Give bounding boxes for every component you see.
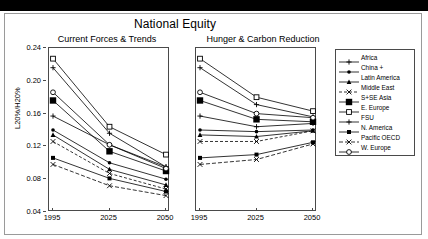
series-marker <box>108 161 112 165</box>
x-axis-tick <box>199 208 200 211</box>
series-marker <box>164 152 169 157</box>
series-line <box>200 68 313 117</box>
legend-symbol-cross-icon <box>338 133 360 143</box>
legend-item[interactable]: Middle East <box>338 83 412 93</box>
series-marker <box>107 167 112 172</box>
legend-label: FSU <box>360 113 374 123</box>
y-axis-tick <box>43 80 46 81</box>
legend-symbol-triangle-icon <box>338 73 360 83</box>
legend-item[interactable]: Africa <box>338 53 412 63</box>
y-axis: 0.040.080.120.160.200.24 <box>20 47 46 211</box>
series-marker <box>50 113 55 118</box>
y-axis-tick-label: 0.24 <box>17 43 41 52</box>
legend-item[interactable]: S+SE Asia <box>338 93 412 103</box>
top-black-band <box>0 0 428 11</box>
series-line <box>53 130 166 179</box>
legend-label: Middle East <box>360 83 394 93</box>
x-axis-tick-label: 2050 <box>148 213 182 222</box>
series-marker <box>106 148 112 154</box>
series-marker <box>254 102 259 107</box>
subplot-title-left: Current Forces & Trends <box>27 34 187 44</box>
plot-area-right <box>196 48 317 212</box>
legend-symbol-square-icon <box>338 123 360 133</box>
series-marker <box>197 113 202 118</box>
legend-label: N. America <box>360 123 392 133</box>
series-marker <box>51 56 56 61</box>
y-axis-tick-label: 0.20 <box>17 75 41 84</box>
series-marker <box>51 139 56 144</box>
series-marker <box>107 142 112 147</box>
legend-symbol-cross-icon <box>338 83 360 93</box>
y-axis-tick-label: 0.08 <box>17 174 41 183</box>
y-axis-tick-label: 0.12 <box>17 141 41 150</box>
x-axis-tick <box>256 208 257 211</box>
subplot-title-right: Hunger & Carbon Reduction <box>183 34 343 44</box>
y-axis-tick <box>43 113 46 114</box>
legend-item[interactable]: FSU <box>338 113 412 123</box>
series-marker <box>198 156 202 160</box>
legend-label: Africa <box>360 53 377 63</box>
x-axis-tick-label: 1995 <box>35 213 69 222</box>
subplot-left <box>48 47 169 211</box>
series-marker <box>51 162 56 167</box>
series-marker <box>51 156 55 160</box>
legend-item[interactable]: N. America <box>338 123 412 133</box>
series-marker <box>254 139 259 144</box>
x-axis-tick-label: 2050 <box>295 213 329 222</box>
y-axis-title: L20%/H20% <box>13 87 22 129</box>
series-marker <box>51 128 55 132</box>
legend-symbol-dot-icon <box>338 63 360 73</box>
series-marker <box>255 153 259 157</box>
y-axis-tick <box>43 178 46 179</box>
series-marker <box>50 97 56 103</box>
chart-main-title: National Equity <box>5 17 345 31</box>
series-marker <box>108 176 112 180</box>
legend-item[interactable]: Latin America <box>338 73 412 83</box>
legend-symbol-bigsquare-icon <box>338 93 360 103</box>
y-axis-tick <box>43 211 46 212</box>
x-axis-tick <box>165 208 166 211</box>
legend-symbol-opensquare-icon <box>338 103 360 113</box>
series-marker <box>107 171 112 176</box>
x-axis-tick-label: 1995 <box>182 213 216 222</box>
series-marker <box>254 95 259 100</box>
y-axis-tick <box>43 47 46 48</box>
series-marker <box>311 109 316 114</box>
series-marker <box>254 111 259 116</box>
legend-item[interactable]: W. Europe <box>338 143 412 153</box>
series-marker <box>198 90 203 95</box>
legend-label: E. Europe <box>360 103 389 113</box>
series-marker <box>107 124 112 129</box>
series-marker <box>198 56 203 61</box>
series-marker <box>254 124 259 129</box>
series-marker <box>197 65 202 70</box>
chart-frame: National Equity Current Forces & Trends … <box>4 13 422 235</box>
legend-symbol-plus-icon <box>338 113 360 123</box>
legend-label: S+SE Asia <box>360 93 391 103</box>
x-axis-tick-label: 2025 <box>239 213 273 222</box>
series-line <box>53 116 166 167</box>
legend-item[interactable]: E. Europe <box>338 103 412 113</box>
legend-label: W. Europe <box>360 143 391 153</box>
legend-label: Pacific OECD <box>360 133 400 143</box>
series-marker <box>51 90 56 95</box>
legend-symbol-plus-icon <box>338 53 360 63</box>
x-axis-tick <box>52 208 53 211</box>
legend-item[interactable]: China + <box>338 63 412 73</box>
series-marker <box>198 128 202 132</box>
series-marker <box>255 130 259 134</box>
series-marker <box>164 166 169 171</box>
series-marker <box>164 177 168 181</box>
series-marker <box>253 116 259 122</box>
x-axis-tick-label: 2025 <box>92 213 126 222</box>
legend-item[interactable]: Pacific OECD <box>338 133 412 143</box>
series-marker <box>311 115 316 120</box>
x-axis-tick <box>109 208 110 211</box>
subplot-right <box>195 47 316 211</box>
series-marker <box>164 190 168 194</box>
y-axis-tick <box>43 145 46 146</box>
legend-label: Latin America <box>360 73 400 83</box>
chart-legend: AfricaChina +Latin AmericaMiddle EastS+S… <box>335 49 415 156</box>
legend-symbol-opencircle-icon <box>338 143 360 153</box>
legend-label: China + <box>360 63 383 73</box>
